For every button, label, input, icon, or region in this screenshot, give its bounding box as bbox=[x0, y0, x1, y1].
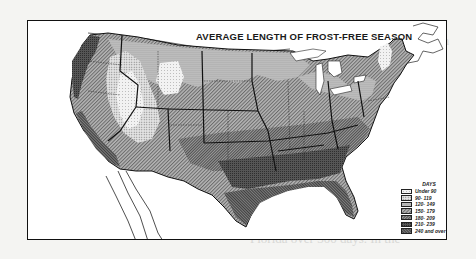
legend-label: 210- 239 bbox=[415, 221, 435, 227]
legend-label: 120- 149 bbox=[415, 201, 435, 207]
map-frame: AVERAGE LENGTH OF FROST-FREE SEASON DAYS… bbox=[27, 20, 447, 240]
legend-label: 150- 179 bbox=[415, 208, 435, 214]
legend-title: DAYS bbox=[397, 181, 447, 187]
legend-swatch-icon bbox=[401, 195, 412, 200]
legend-swatch-icon bbox=[401, 189, 412, 194]
us-map bbox=[28, 21, 447, 240]
legend-item: Under 90 bbox=[401, 188, 447, 195]
legend-label: 240 and over bbox=[415, 228, 446, 234]
legend-label: 180- 209 bbox=[415, 215, 435, 221]
legend-swatch-icon bbox=[401, 222, 412, 227]
legend-swatch-icon bbox=[401, 208, 412, 213]
legend-item: 90- 119 bbox=[401, 195, 447, 202]
legend-label: 90- 119 bbox=[415, 195, 432, 201]
legend-item: 120- 149 bbox=[401, 201, 447, 208]
legend-item: 240 and over bbox=[401, 228, 447, 235]
legend-label: Under 90 bbox=[415, 188, 436, 194]
mexico-outline bbox=[106, 171, 163, 240]
map-title: AVERAGE LENGTH OF FROST-FREE SEASON bbox=[196, 31, 412, 42]
map-legend: DAYS Under 90 90- 119 120- 149 150- 179 … bbox=[401, 181, 447, 234]
legend-swatch-icon bbox=[401, 228, 412, 233]
legend-item: 180- 209 bbox=[401, 214, 447, 221]
legend-item: 150- 179 bbox=[401, 208, 447, 215]
legend-swatch-icon bbox=[401, 202, 412, 207]
legend-item: 210- 239 bbox=[401, 221, 447, 228]
legend-swatch-icon bbox=[401, 215, 412, 220]
